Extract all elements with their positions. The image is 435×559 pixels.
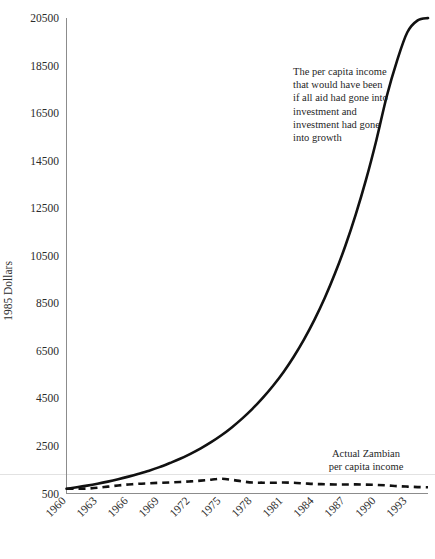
line-chart: 5002500450065008500105001250014500165001… [0, 0, 435, 559]
y-axis-title: 1985 Dollars [2, 261, 14, 321]
y-tick-label: 6500 [36, 345, 59, 357]
y-tick-label: 8500 [36, 297, 59, 309]
y-tick-label: 18500 [30, 60, 59, 72]
y-tick-label: 20500 [30, 12, 59, 24]
annotation-line: into growth [293, 132, 342, 143]
annotation-line: investment and [293, 106, 358, 117]
y-tick-label: 2500 [36, 440, 59, 452]
y-tick-label: 4500 [36, 392, 59, 404]
annotation-line: that would have been [293, 79, 383, 90]
y-tick-label: 10500 [30, 250, 59, 262]
y-tick-label: 12500 [30, 202, 59, 214]
chart-container: 5002500450065008500105001250014500165001… [0, 0, 435, 559]
y-tick-label: 16500 [30, 107, 59, 119]
annotation-line: The per capita income [293, 66, 387, 77]
annotation-line: Actual Zambian [332, 448, 401, 459]
y-tick-label: 14500 [30, 155, 59, 167]
annotation-line: investment had gone [293, 119, 380, 130]
annotation-line: if all aid had gone into [293, 92, 388, 103]
annotation-line: per capita income [329, 461, 404, 472]
